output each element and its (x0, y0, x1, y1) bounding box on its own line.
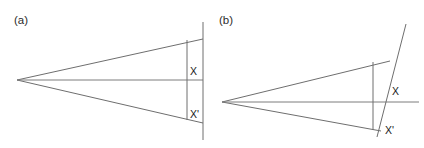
panel-b-label-x-prime: X' (385, 124, 394, 136)
panel-a-label-x: X (190, 65, 197, 77)
panel-b-lower-ray (222, 102, 381, 131)
panel-a-label: (a) (14, 14, 28, 26)
panel-a: (a) X X' (14, 14, 203, 140)
figure-container: (a) X X' (b) X X' (0, 0, 424, 148)
panel-a-label-x-prime: X' (190, 108, 199, 120)
panel-a-lower-ray (17, 80, 203, 123)
panel-a-upper-ray (17, 39, 203, 80)
panel-b-upper-ray (222, 61, 390, 102)
diagram-svg: (a) X X' (b) X X' (0, 0, 424, 148)
panel-b-tilted-screen (377, 24, 406, 137)
panel-b-label: (b) (219, 14, 233, 26)
panel-b: (b) X X' (219, 14, 419, 137)
panel-b-label-x: X (392, 85, 399, 97)
